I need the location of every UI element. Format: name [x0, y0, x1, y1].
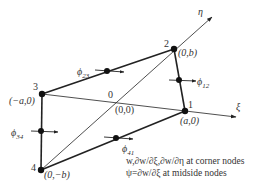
phi12-label: ϕ12 [197, 76, 210, 90]
note-midside-nodes: ψ=∂w/∂ξ at midside nodes [126, 168, 227, 179]
node-3-dot [39, 91, 45, 97]
node-3-coords: (−a,0) [9, 95, 36, 107]
phi34-label: ϕ34 [11, 127, 24, 141]
node-4-coords: (0,−b) [44, 169, 71, 181]
node-2-coords: (0,b) [178, 47, 198, 59]
xi-axis [42, 94, 236, 117]
element-edges [41, 49, 185, 170]
node-1-number: 1 [188, 99, 193, 110]
node-2-number: 2 [164, 38, 169, 49]
eta-label: η [198, 6, 203, 17]
origin-number: 0 [108, 89, 113, 100]
node-1-coords: (a,0) [180, 115, 200, 127]
node-2-dot [171, 46, 177, 52]
phi41-label: ϕ41 [122, 143, 134, 157]
phi23-label: ϕ23 [77, 66, 90, 80]
midside-node-12 [169, 77, 196, 83]
origin-coords: (0,0) [115, 104, 134, 116]
xi-label: ξ [236, 101, 241, 113]
midside-node-23 [95, 68, 124, 74]
element-diagram: η ξ 0 (0,0) 1 (a,0) 2 (0,b) 3 (−a,0) 4 (… [0, 0, 274, 192]
midside-node-34 [31, 128, 58, 134]
node-4-number: 4 [31, 162, 36, 173]
midside-node-41 [104, 135, 133, 141]
node-3-number: 3 [33, 81, 38, 92]
note-corner-nodes: w,∂w/∂ξ,∂w/∂η at corner nodes [126, 156, 245, 167]
